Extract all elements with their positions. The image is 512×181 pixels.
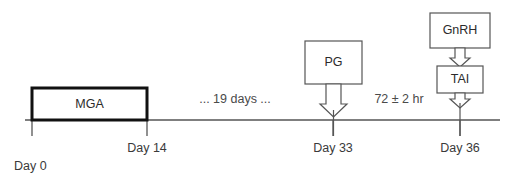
tick-label-day-14: Day 14 (127, 141, 167, 155)
timeline-diagram: MGA PG GnRH TAI ... 19 days ... 72 ± 2 h… (0, 0, 512, 181)
tick-label-day-0: Day 0 (14, 159, 47, 173)
tick-label-day-33: Day 33 (313, 141, 353, 155)
arrow-gnrh-to-tai (450, 48, 470, 67)
diagram-canvas: MGA PG GnRH TAI ... 19 days ... 72 ± 2 h… (0, 0, 512, 181)
treatment-box-pg-label: PG (324, 55, 342, 69)
interval-label-72-hr: 72 ± 2 hr (374, 92, 423, 106)
treatment-box-gnrh-label: GnRH (443, 23, 478, 37)
interval-label-19-days: ... 19 days ... (199, 92, 271, 106)
treatment-box-tai-label: TAI (451, 72, 470, 86)
tick-label-day-36: Day 36 (440, 141, 480, 155)
treatment-box-mga-label: MGA (75, 97, 104, 111)
